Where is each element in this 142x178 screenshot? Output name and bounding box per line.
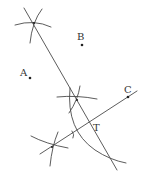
top-arc-marks — [15, 9, 51, 43]
point-c — [127, 96, 130, 99]
middle-intersection-point — [76, 99, 78, 101]
point-b — [81, 44, 84, 47]
perpendicular-bisector-line — [24, 8, 117, 170]
label-a: A — [19, 67, 28, 78]
bottom-intersection-point — [51, 146, 53, 148]
point-a — [29, 77, 32, 80]
top-intersection-point — [33, 22, 35, 24]
label-c: C — [124, 84, 132, 95]
bottom-arc-marks — [31, 132, 68, 166]
label-b: B — [77, 31, 84, 42]
label-t: T — [93, 122, 100, 133]
construction-diagram: A B C T — [0, 0, 142, 178]
